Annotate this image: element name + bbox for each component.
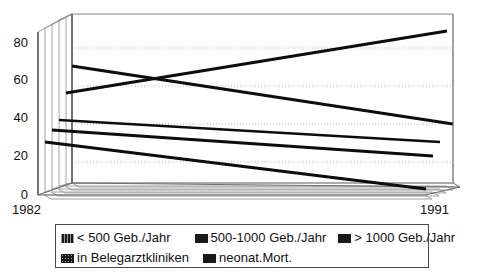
legend-label-gt1000: > 1000 Geb./Jahr [354, 231, 455, 245]
chart-svg [0, 0, 482, 220]
plot-area [0, 0, 482, 220]
legend-label-neonat: neonat.Mort. [219, 251, 292, 265]
x-tick-1982: 1982 [12, 203, 41, 216]
chart-figure: 80 60 40 20 0 1982 1991 < 500 Geb./Jahr … [0, 0, 482, 276]
y-tick-60: 60 [2, 73, 28, 86]
legend-swatch-gt1000 [338, 234, 351, 243]
y-tick-0: 0 [2, 188, 28, 201]
legend-label-500-1000: 500-1000 Geb./Jahr [211, 231, 327, 245]
legend-box: < 500 Geb./Jahr 500-1000 Geb./Jahr > 100… [55, 224, 429, 268]
right-frame-skew [453, 183, 460, 187]
legend-item-neonat[interactable]: neonat.Mort. [203, 248, 292, 268]
y-tick-20: 20 [2, 149, 28, 162]
legend-row-2: in Belegarztkliniken neonat.Mort. [61, 248, 428, 268]
legend-swatch-neonat [203, 254, 216, 263]
depth-walls [38, 14, 72, 195]
legend-swatch-belegarzt [61, 254, 74, 263]
legend-swatch-lt500 [61, 234, 74, 243]
legend-item-lt500[interactable]: < 500 Geb./Jahr [61, 228, 171, 248]
x-tick-1991: 1991 [420, 203, 449, 216]
legend-row-1: < 500 Geb./Jahr 500-1000 Geb./Jahr > 100… [61, 228, 428, 248]
legend-swatch-500-1000 [195, 234, 208, 243]
legend-item-gt1000[interactable]: > 1000 Geb./Jahr [338, 228, 455, 248]
legend-label-belegarzt: in Belegarztkliniken [77, 251, 189, 265]
y-tick-80: 80 [2, 36, 28, 49]
legend-label-lt500: < 500 Geb./Jahr [77, 231, 171, 245]
legend-item-belegarzt[interactable]: in Belegarztkliniken [61, 248, 189, 268]
legend-item-500-1000[interactable]: 500-1000 Geb./Jahr [195, 228, 327, 248]
y-tick-40: 40 [2, 111, 28, 124]
